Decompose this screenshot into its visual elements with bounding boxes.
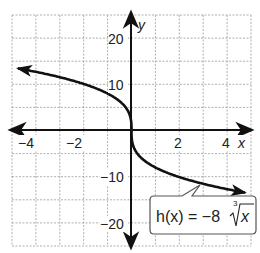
x-tick-label: −4: [18, 135, 34, 151]
formula-radical-index: 3: [233, 199, 238, 208]
y-tick-label: −20: [100, 216, 124, 232]
formula-lhs: h(x) = −8: [156, 208, 220, 225]
y-tick-label: −10: [100, 169, 124, 185]
x-tick-label: 4: [222, 135, 230, 151]
formula-radicand: x: [240, 208, 250, 225]
x-tick-label: 2: [174, 135, 182, 151]
x-axis-label: x: [237, 135, 246, 151]
y-axis-label: y: [137, 17, 146, 33]
y-tick-label: 20: [108, 31, 124, 47]
x-tick-label: −2: [66, 135, 82, 151]
y-tick-label: 10: [108, 77, 124, 93]
function-graph: −4 −2 2 4 x 20 10 −10 −20 y h(x) = −8 3 …: [0, 0, 260, 253]
